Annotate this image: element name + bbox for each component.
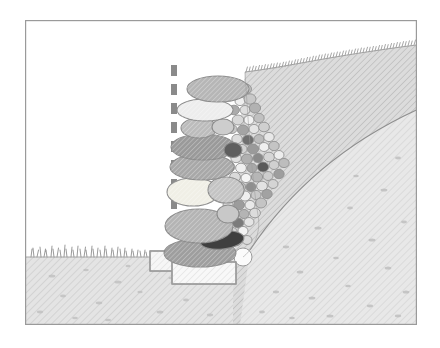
face-stone <box>187 76 249 102</box>
face-stone <box>208 177 244 203</box>
face-stone <box>212 119 234 135</box>
illustration-root: Dry stone retaining wall cross-section <box>0 0 440 348</box>
scene-content <box>26 21 417 325</box>
retaining-wall-section-figure <box>0 0 440 348</box>
face-stone-dark-accent <box>224 143 242 158</box>
face-stone-light <box>177 99 233 121</box>
face-stone <box>217 205 239 223</box>
